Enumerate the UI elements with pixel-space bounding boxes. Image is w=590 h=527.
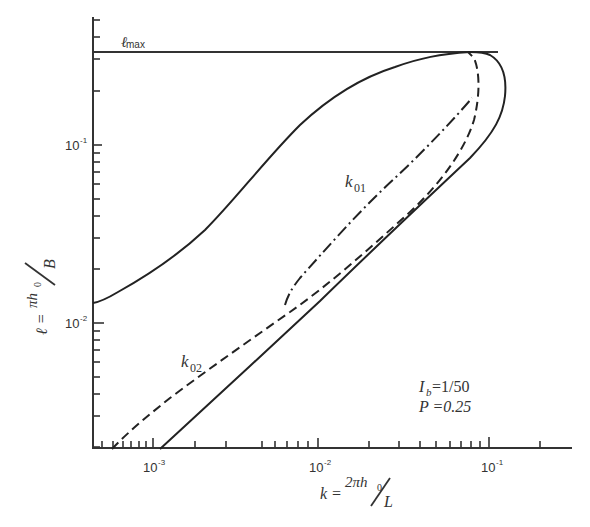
svg-text:2πh: 2πh xyxy=(345,474,368,490)
k02-sub-label: 02 xyxy=(190,361,202,375)
svg-text:-1: -1 xyxy=(496,458,504,467)
svg-text:-3: -3 xyxy=(158,458,166,467)
svg-text:10: 10 xyxy=(143,460,157,475)
svg-text:L: L xyxy=(383,493,393,510)
svg-text:-2: -2 xyxy=(80,314,88,323)
svg-text:10: 10 xyxy=(481,460,495,475)
p-value: P =0.25 xyxy=(418,398,471,415)
svg-text:10: 10 xyxy=(65,138,79,153)
k01-curve xyxy=(285,98,472,305)
svg-text:k =: k = xyxy=(320,485,342,502)
k01-label: k xyxy=(345,172,353,191)
x-axis-label: k = 2πh 0 L xyxy=(320,474,393,510)
chart: ℓ max k 01 k 02 I b =1/50 P =0.25 10 -3 … xyxy=(0,0,590,527)
upper-boundary-curve xyxy=(93,52,470,303)
x-tick-labels: 10 -3 10 -2 10 -1 xyxy=(143,458,504,475)
svg-text:0: 0 xyxy=(32,282,43,287)
ib-value: =1/50 xyxy=(432,378,469,395)
svg-text:B: B xyxy=(41,259,58,269)
k02-label: k xyxy=(181,352,189,371)
y-axis-label: ℓ = πh 0 B xyxy=(24,259,58,335)
lmax-sub-label: max xyxy=(126,39,145,50)
svg-text:ℓ =: ℓ = xyxy=(33,314,50,335)
svg-text:-1: -1 xyxy=(80,136,88,145)
y-ticks xyxy=(93,20,104,447)
svg-text:10: 10 xyxy=(309,460,323,475)
ib-symbol: I xyxy=(418,378,425,395)
k01-sub-label: 01 xyxy=(354,181,366,195)
axes xyxy=(92,17,572,449)
svg-text:10: 10 xyxy=(65,316,79,331)
y-tick-labels: 10 -1 10 -2 xyxy=(65,136,88,331)
svg-text:πh: πh xyxy=(24,293,40,308)
svg-text:-2: -2 xyxy=(324,458,332,467)
